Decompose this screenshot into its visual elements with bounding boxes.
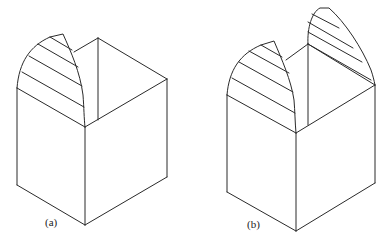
figure-b-box bbox=[227, 44, 375, 231]
figure-a bbox=[17, 34, 167, 225]
figure-b bbox=[227, 8, 375, 231]
figure-b-label: (b) bbox=[247, 218, 260, 230]
figure-a-box bbox=[17, 38, 167, 225]
figure-a-label: (a) bbox=[45, 216, 57, 228]
figure-a-hatched-cap bbox=[17, 34, 85, 127]
diagram-canvas bbox=[0, 0, 391, 240]
figure-b-right-hatched-cap bbox=[308, 8, 375, 85]
figure-b-left-hatched-cap bbox=[227, 41, 296, 133]
